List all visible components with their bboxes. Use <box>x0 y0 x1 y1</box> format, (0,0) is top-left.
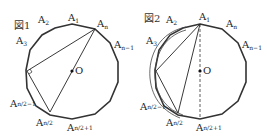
label-an: An <box>225 18 237 30</box>
label-a3: A3 <box>15 35 27 47</box>
label-a-half-minus-1: An/2−1 <box>9 98 36 109</box>
figure-1-caption: 図1 <box>14 20 30 31</box>
label-a3: A3 <box>145 35 157 47</box>
label-a-half: An/2 <box>165 117 183 128</box>
center-label: O <box>203 65 211 76</box>
label-a-half-plus-1: An/2+1 <box>195 122 222 133</box>
label-a-half: An/2 <box>35 117 53 128</box>
center-dot <box>70 69 73 72</box>
chord-a1-to-ah <box>178 24 200 113</box>
label-a2: A2 <box>165 14 177 26</box>
label-a2: A2 <box>37 14 49 26</box>
center-dot <box>198 69 201 72</box>
label-an-1: An−1 <box>113 39 134 51</box>
label-an: An <box>96 18 108 30</box>
label-a-half-plus-1: An/2+1 <box>66 122 93 133</box>
label-a1: A1 <box>67 12 79 24</box>
label-an-1: An−1 <box>241 39 262 51</box>
figure-1: 図1 O A1 A2 A3 An An−1 An/2−1 An/2 An/2+1 <box>9 12 134 133</box>
label-a-half-minus-1: An/2−1 <box>139 101 166 112</box>
figure-2-caption: 図2 <box>144 13 160 24</box>
chord-an-to-left <box>27 29 95 71</box>
diagram-canvas: 図1 O A1 A2 A3 An An−1 An/2−1 An/2 An/2+1… <box>0 0 267 140</box>
label-a1: A1 <box>198 11 210 23</box>
figure-2: 図2 O A1 A2 A3 An An−1 An/2−1 An/2 An/2+1 <box>139 11 262 133</box>
center-label: O <box>75 65 83 76</box>
